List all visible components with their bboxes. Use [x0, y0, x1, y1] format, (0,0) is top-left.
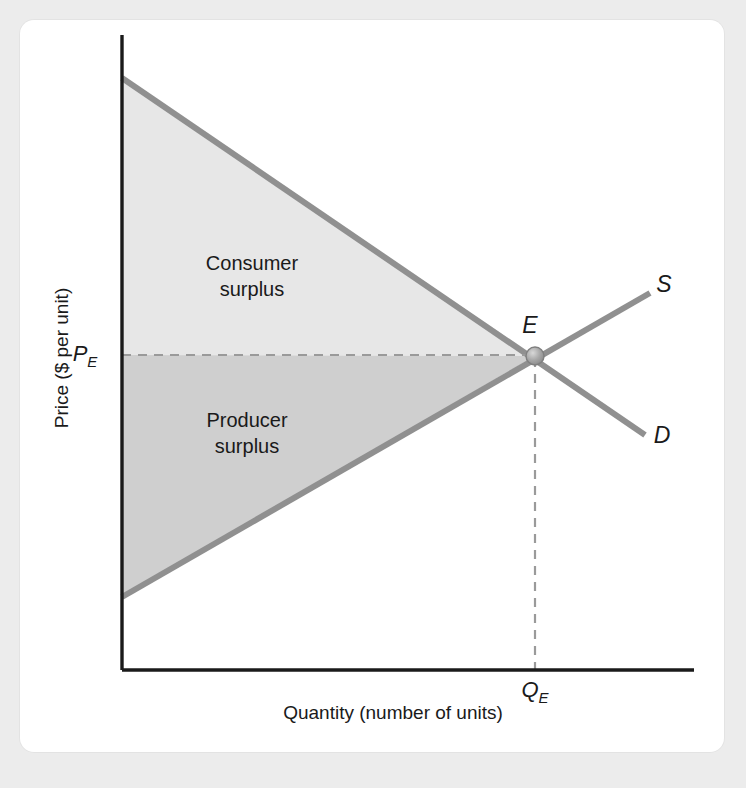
supply-curve-label: S — [656, 271, 672, 297]
figure-root: E S D Consumer surplus Producer surplus … — [0, 0, 746, 788]
consumer-surplus-label-line1: Consumer — [206, 252, 299, 274]
equilibrium-price-label: PE — [73, 341, 99, 370]
consumer-surplus-label-line2: surplus — [220, 278, 284, 300]
equilibrium-quantity-label-base: Q — [521, 677, 538, 702]
equilibrium-price-label-sub: E — [87, 353, 98, 370]
equilibrium-point-label: E — [522, 312, 538, 338]
equilibrium-point-marker — [526, 347, 544, 365]
producer-surplus-label-line1: Producer — [206, 409, 287, 431]
equilibrium-price-label-base: P — [73, 341, 88, 366]
equilibrium-quantity-label-sub: E — [539, 689, 550, 706]
equilibrium-quantity-label: QE — [521, 677, 549, 706]
surplus-chart: E S D Consumer surplus Producer surplus … — [0, 0, 746, 788]
demand-curve-label: D — [654, 422, 671, 448]
y-axis-title: Price ($ per unit) — [51, 288, 72, 428]
x-axis-title: Quantity (number of units) — [283, 702, 503, 723]
producer-surplus-label-line2: surplus — [215, 435, 279, 457]
